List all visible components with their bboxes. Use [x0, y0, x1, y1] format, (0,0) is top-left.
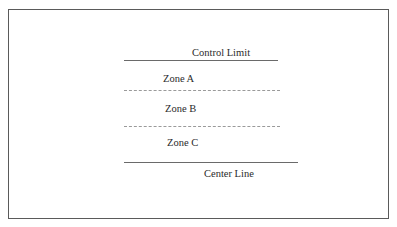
control-limit-label: Control Limit: [192, 47, 250, 59]
center-line: [124, 162, 298, 163]
zone-a-b-boundary-line: [124, 90, 280, 91]
zone-b-c-boundary-line: [124, 126, 280, 127]
center-line-label: Center Line: [204, 168, 254, 180]
zone-c-label: Zone C: [167, 137, 198, 149]
diagram-frame: [8, 9, 389, 219]
control-limit-line: [124, 60, 278, 61]
zone-b-label: Zone B: [165, 103, 196, 115]
zone-a-label: Zone A: [163, 73, 194, 85]
